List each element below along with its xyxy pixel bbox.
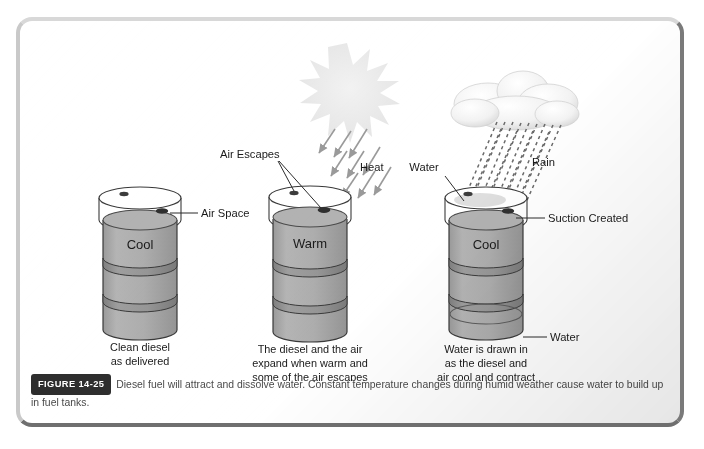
drum-state-label: Warm — [293, 236, 327, 251]
sun-icon — [299, 43, 400, 143]
drum-state-label: Cool — [473, 237, 500, 252]
figure-frame: Air Space Clean diesel as delivered Cool — [16, 17, 684, 427]
bung-cap-large — [502, 208, 514, 214]
panel-cool-clean: Air Space Clean diesel as delivered Cool — [99, 187, 250, 367]
callout-heat: Heat — [360, 161, 385, 173]
figure-number-badge: FIGURE 14-25 — [31, 374, 111, 395]
callout-suction-created: Suction Created — [548, 212, 628, 224]
bung-cap-large — [318, 207, 331, 213]
figure-artwork: Air Space Clean diesel as delivered Cool — [20, 21, 684, 427]
diagram-canvas: Air Space Clean diesel as delivered Cool — [20, 21, 684, 381]
figure-caption: FIGURE 14-25Diesel fuel will attract and… — [31, 374, 671, 410]
drum-cool-clean — [99, 187, 181, 340]
panel-caption-line-1: Clean diesel — [110, 341, 170, 353]
bung-cap-small — [289, 191, 298, 195]
callout-air-escapes: Air Escapes — [220, 148, 280, 160]
drum-warm — [269, 186, 351, 342]
drum-cool-contract — [445, 187, 527, 340]
panel-caption-line-2: expand when warm and — [252, 357, 368, 369]
water-pool-top — [454, 193, 506, 207]
panel-caption-line-2: as the diesel and — [445, 357, 527, 369]
callout-rain: Rain — [532, 156, 555, 168]
callout-water-top: Water — [409, 161, 439, 173]
drum-state-label: Cool — [127, 237, 154, 252]
cloud-icon — [451, 71, 579, 130]
bung-cap-small — [463, 192, 472, 196]
panel-caption-line-2: as delivered — [111, 355, 170, 367]
panel-cool-contract: Water Rain Suction Created Water Water i… — [409, 71, 628, 381]
callout-water-bottom: Water — [550, 331, 580, 343]
callout-air-space: Air Space — [201, 207, 250, 219]
panel-caption-line-1: Water is drawn in — [444, 343, 528, 355]
panel-caption-line-1: The diesel and the air — [258, 343, 363, 355]
bung-cap-small — [119, 192, 128, 196]
figure-caption-text: Diesel fuel will attract and dissolve wa… — [31, 379, 663, 408]
bung-cap-large — [156, 208, 168, 214]
